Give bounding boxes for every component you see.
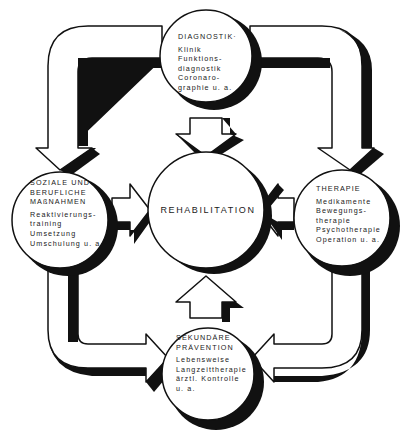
node-item: training	[30, 219, 104, 229]
node-item: Klinik	[178, 45, 237, 55]
node-item: Lebensweise	[176, 355, 247, 365]
node-sekundaere-praevention: SEKUNDÄRE PRÄVENTION Lebensweise Langzei…	[176, 333, 247, 394]
node-title-line: PRÄVENTION	[176, 343, 247, 353]
node-item: ärztl. Kontrolle	[176, 374, 247, 384]
curved-arrow-bottom-right	[252, 262, 362, 382]
node-item: therapie	[316, 216, 381, 226]
node-title: DIAGNOSTIK·	[178, 32, 237, 42]
node-title-line: BERUFLICHE	[30, 188, 104, 198]
node-item: Umschulung u. a.	[30, 239, 104, 249]
node-item: diagnostik	[178, 64, 237, 74]
node-item: u. a.	[176, 384, 247, 394]
node-item: graphie u. a.	[178, 83, 237, 93]
curved-arrow-top-right	[250, 26, 374, 170]
node-item: Funktions-	[178, 54, 237, 64]
node-soziale-massnahmen: SOZIALE UND BERUFLICHE MAßNAHMEN Reaktiv…	[30, 178, 104, 248]
node-title: THERAPIE	[316, 184, 381, 194]
node-item: Langzeittherapie	[176, 365, 247, 375]
node-item: Bewegungs-	[316, 206, 381, 216]
node-item: Operation u. a.	[316, 235, 381, 245]
node-title-line: SOZIALE UND	[30, 178, 104, 188]
node-item: Psychotherapie	[316, 225, 381, 235]
node-title-line: MAßNAHMEN	[30, 197, 104, 207]
node-item: Coronaro-	[178, 73, 237, 83]
node-item: Medikamente	[316, 197, 381, 207]
center-label: REHABILITATION	[148, 205, 268, 215]
node-item: Umsetzung	[30, 229, 104, 239]
node-title-line: SEKUNDÄRE	[176, 333, 247, 343]
node-therapie: THERAPIE Medikamente Bewegungs- therapie…	[316, 184, 381, 245]
node-item: Reaktivierungs-	[30, 210, 104, 220]
node-diagnostik: DIAGNOSTIK· Klinik Funktions- diagnostik…	[178, 32, 237, 93]
